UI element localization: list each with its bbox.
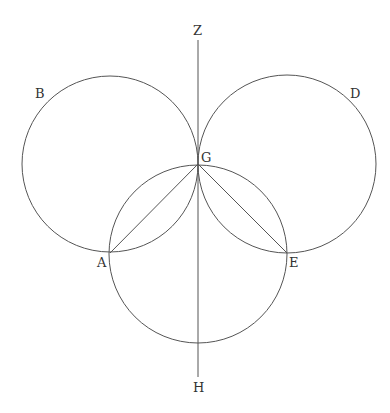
right-circle-D [198,75,376,253]
left-circle-B [22,76,198,252]
figure-canvas: Z B D G A E H [0,0,390,413]
label-B: B [35,86,45,101]
label-G: G [201,150,211,165]
label-H: H [193,380,204,395]
label-A: A [96,255,107,270]
geometric-figure: Z B D G A E H [0,0,390,413]
label-D: D [350,86,360,101]
label-Z: Z [193,23,202,38]
label-E: E [289,255,299,270]
